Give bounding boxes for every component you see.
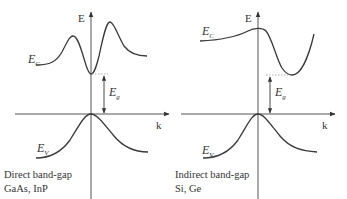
indirect-bandgap-panel: E k EC EV Eg Indirect band-gap Si, Ge (175, 12, 335, 199)
valence-band-label: EV (36, 141, 49, 157)
direct-bandgap-panel: E k EC EV Eg Direct band-gap GaAs, InP (4, 12, 169, 199)
conduction-band-label: EC (201, 24, 214, 40)
energy-axis-label: E (78, 12, 85, 24)
conduction-band-curve (200, 28, 314, 75)
valence-band-curve (36, 114, 148, 158)
panel-caption-title: Indirect band-gap (175, 169, 249, 180)
energy-axis-label: E (245, 12, 252, 24)
band-gap-label: Eg (108, 85, 120, 101)
panel-caption-materials: GaAs, InP (4, 183, 48, 194)
panel-caption-materials: Si, Ge (175, 183, 202, 194)
k-axis-label: k (322, 119, 328, 131)
k-axis-label: k (156, 119, 162, 131)
band-gap-label: Eg (274, 85, 286, 101)
valence-band-label: EV (201, 143, 214, 159)
band-gap-diagram: E k EC EV Eg Direct band-gap GaAs, InP E… (0, 0, 347, 199)
valence-band-curve (203, 114, 317, 158)
conduction-band-label: EC (27, 52, 40, 68)
panel-caption-title: Direct band-gap (4, 169, 72, 180)
